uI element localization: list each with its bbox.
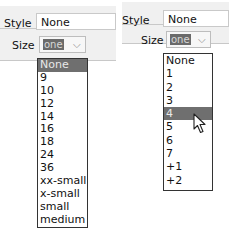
dropdown-option[interactable]: 10 — [38, 85, 87, 98]
dropdown-option[interactable]: 1 — [164, 67, 212, 80]
dropdown-option[interactable]: 12 — [38, 98, 87, 111]
dropdown-option[interactable]: +1 — [164, 160, 212, 173]
dropdown-option[interactable]: 7 — [164, 147, 212, 160]
size-dropdown-list[interactable]: None910121416182436xx-smallx-smallsmallm… — [37, 58, 88, 228]
size-label: Size — [141, 34, 164, 47]
chevron-down-icon: ⌵ — [73, 38, 81, 52]
size-select[interactable]: one ⌵ — [39, 36, 86, 53]
style-input[interactable]: None — [36, 13, 116, 30]
dropdown-option[interactable]: small — [38, 201, 87, 214]
size-label: Size — [12, 39, 35, 52]
mouse-pointer-icon — [193, 113, 209, 135]
dropdown-option[interactable]: 6 — [164, 134, 212, 147]
size-select[interactable]: one ⌵ — [166, 31, 211, 48]
style-input[interactable]: None — [163, 10, 229, 27]
dropdown-option[interactable]: 2 — [164, 81, 212, 94]
dropdown-option[interactable]: None — [38, 59, 87, 72]
dropdown-option[interactable]: +2 — [164, 174, 212, 187]
dropdown-option[interactable]: None — [164, 54, 212, 67]
style-label: Style — [122, 14, 150, 27]
style-label: Style — [4, 17, 32, 30]
dropdown-option[interactable]: x-small — [38, 188, 87, 201]
dropdown-option[interactable]: 3 — [164, 94, 212, 107]
size-select-value: one — [43, 39, 64, 50]
size-select-value: one — [170, 34, 191, 45]
dropdown-option[interactable]: 9 — [38, 72, 87, 85]
dropdown-option[interactable]: xx-small — [38, 175, 87, 188]
dropdown-option[interactable]: medium — [38, 214, 87, 227]
chevron-down-icon: ⌵ — [198, 33, 206, 47]
